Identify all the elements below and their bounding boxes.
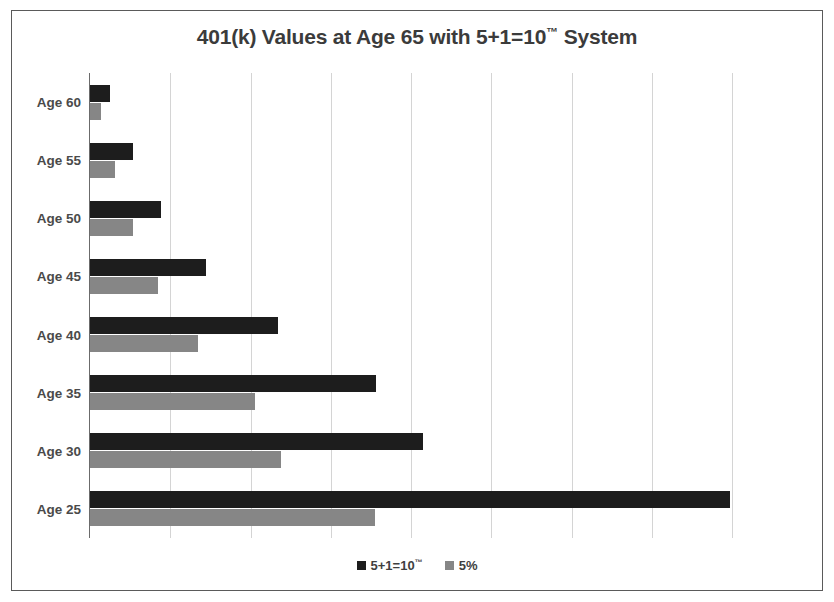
legend-label: 5% — [459, 558, 478, 573]
bar-series2 — [90, 393, 255, 410]
category-label: Age 35 — [37, 385, 81, 400]
category-group: Age 30 — [90, 422, 731, 480]
bar-series2 — [90, 161, 115, 178]
chart-title-main: 401(k) Values at Age 65 with 5+1=10 — [197, 25, 546, 48]
chart-frame: 401(k) Values at Age 65 with 5+1=10™ Sys… — [11, 10, 823, 591]
category-group: Age 45 — [90, 247, 731, 305]
chart-legend: 5+1=10™5% — [12, 558, 822, 573]
category-group: Age 60 — [90, 73, 731, 131]
bar-series1 — [90, 259, 206, 276]
category-label: Age 40 — [37, 327, 81, 342]
bar-series2 — [90, 103, 101, 120]
bar-series1 — [90, 201, 161, 218]
category-label: Age 60 — [37, 95, 81, 110]
bar-series1 — [90, 433, 423, 450]
category-label: Age 25 — [37, 501, 81, 516]
legend-swatch-icon — [445, 561, 454, 570]
bar-series2 — [90, 451, 281, 468]
category-group: Age 35 — [90, 364, 731, 422]
category-label: Age 30 — [37, 443, 81, 458]
category-group: Age 40 — [90, 306, 731, 364]
category-group: Age 25 — [90, 480, 731, 538]
trademark-symbol: ™ — [415, 558, 423, 567]
bar-series1 — [90, 491, 730, 508]
bar-series1 — [90, 143, 133, 160]
bar-series1 — [90, 375, 376, 392]
legend-label: 5+1=10™ — [371, 558, 423, 573]
category-label: Age 50 — [37, 211, 81, 226]
legend-swatch-icon — [357, 561, 366, 570]
bar-series1 — [90, 85, 110, 102]
category-group: Age 50 — [90, 189, 731, 247]
bar-series2 — [90, 509, 375, 526]
bar-series1 — [90, 317, 278, 334]
legend-label-main: 5% — [459, 558, 478, 573]
legend-label-main: 5+1=10 — [371, 558, 415, 573]
bar-series2 — [90, 277, 158, 294]
category-group: Age 55 — [90, 131, 731, 189]
trademark-symbol: ™ — [546, 25, 558, 39]
category-groups: Age 60Age 55Age 50Age 45Age 40Age 35Age … — [90, 73, 731, 538]
bar-series2 — [90, 335, 198, 352]
category-label: Age 45 — [37, 269, 81, 284]
legend-item[interactable]: 5% — [445, 558, 478, 573]
category-label: Age 55 — [37, 153, 81, 168]
chart-title: 401(k) Values at Age 65 with 5+1=10™ Sys… — [12, 25, 822, 49]
chart-title-tail: System — [558, 25, 637, 48]
bar-series2 — [90, 219, 133, 236]
plot-area: Age 60Age 55Age 50Age 45Age 40Age 35Age … — [89, 73, 731, 538]
gridline — [732, 73, 733, 538]
legend-item[interactable]: 5+1=10™ — [357, 558, 423, 573]
